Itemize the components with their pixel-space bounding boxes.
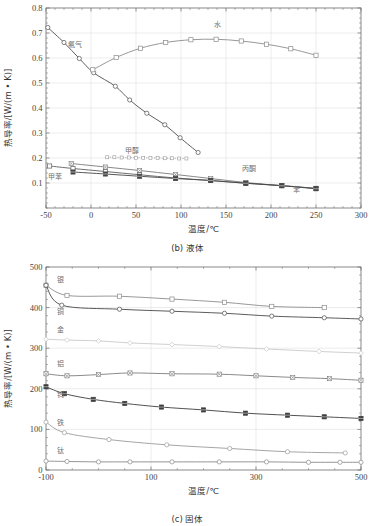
data-point-marker (359, 317, 363, 321)
data-point-marker (91, 68, 95, 72)
liquid-chart-svg: -500501001502002503000.10.20.30.40.50.60… (0, 0, 375, 255)
data-point-marker (46, 25, 50, 29)
y-tick-label: 0.5 (32, 78, 43, 88)
data-point-marker (317, 349, 322, 354)
data-point-marker (239, 39, 243, 43)
y-tick-label: 0.2 (32, 153, 43, 163)
y-tick-label: 0.4 (32, 103, 43, 113)
data-point-marker (149, 157, 152, 160)
series-label-钨: 钨 (57, 390, 64, 399)
series-铁: 铁 (44, 418, 347, 455)
data-point-marker (170, 297, 174, 301)
series-label-钛: 钛 (57, 446, 64, 455)
data-point-marker (128, 341, 133, 346)
data-point-marker (359, 460, 363, 464)
series-label-水: 水 (214, 20, 221, 29)
plot-frame (46, 267, 361, 470)
data-point-marker (270, 314, 274, 318)
data-point-marker (62, 40, 66, 44)
y-tick-label: 500 (30, 262, 43, 272)
data-point-marker (107, 437, 111, 441)
data-point-marker (117, 307, 121, 311)
solid-chart-svg: -1001003005000100200300400500温度/℃热导率/[W/… (0, 255, 375, 526)
data-point-marker (60, 303, 64, 307)
series-line (46, 285, 324, 307)
data-point-marker (44, 459, 48, 463)
liquid-chart-panel: -500501001502002503000.10.20.30.40.50.60… (0, 0, 375, 255)
x-tick-label: 250 (310, 210, 323, 220)
y-tick-label: 0.7 (32, 28, 43, 38)
data-point-marker (44, 420, 48, 424)
y-tick-label: 0.1 (32, 178, 43, 188)
data-point-marker (171, 157, 174, 160)
data-point-marker (164, 40, 168, 44)
data-point-marker (128, 460, 132, 464)
data-point-marker (117, 294, 121, 298)
grid-group (46, 267, 361, 470)
y-tick-label: 200 (30, 384, 43, 394)
data-point-marker (264, 42, 268, 46)
series-label-氨气: 氨气 (68, 40, 82, 49)
x-tick-label: -50 (40, 210, 51, 220)
data-point-marker (222, 300, 226, 304)
data-point-marker (156, 157, 159, 160)
y-tick-label: 100 (30, 424, 43, 434)
data-point-marker (170, 342, 175, 347)
liquid-chart-canvas: -500501001502002503000.10.20.30.40.50.60… (0, 0, 375, 255)
y-tick-label: 0.6 (32, 53, 43, 63)
panel-caption: (c) 固体 (171, 514, 203, 524)
data-point-marker (228, 446, 232, 450)
series-label-金: 金 (57, 325, 64, 334)
series-line (93, 39, 316, 70)
data-point-marker (338, 460, 342, 464)
series-氨气: 氨气 (46, 25, 201, 154)
y-tick-label: 0 (38, 465, 42, 475)
data-point-marker (96, 460, 100, 464)
series-水: 水 (91, 20, 318, 72)
series-line (46, 422, 345, 453)
y-tick-label: 0.3 (32, 128, 43, 138)
data-point-marker (165, 443, 169, 447)
data-point-marker (65, 338, 70, 343)
data-point-marker (189, 38, 193, 42)
series-甲苯: 甲苯 (48, 164, 319, 191)
solid-chart-canvas: -1001003005000100200300400500温度/℃热导率/[W/… (0, 255, 375, 526)
data-point-marker (285, 450, 289, 454)
y-axis-title: 热导率/[W/(m • K)] (3, 329, 13, 408)
y-axis-title: 热导率/[W/(m • K)] (3, 69, 13, 148)
data-point-marker (113, 156, 116, 159)
data-point-marker (196, 150, 200, 154)
series-钛: 钛 (44, 446, 363, 464)
data-point-marker (128, 98, 132, 102)
data-point-marker (106, 156, 109, 159)
series-label-铝: 铝 (57, 359, 64, 368)
data-point-marker (113, 84, 117, 88)
data-point-marker (163, 123, 167, 127)
data-point-marker (135, 156, 138, 159)
data-point-marker (163, 157, 166, 160)
series-label-甲苯: 甲苯 (48, 172, 62, 181)
series-label-丙酮: 丙酮 (242, 165, 256, 173)
data-point-marker (185, 157, 188, 160)
data-point-marker (270, 304, 274, 308)
data-point-marker (178, 136, 182, 140)
series-金: 金 (44, 325, 364, 356)
x-axis-title: 温度/℃ (188, 486, 219, 496)
data-point-marker (48, 164, 52, 168)
data-point-marker (289, 47, 293, 51)
data-point-marker (264, 347, 269, 352)
data-point-marker (322, 316, 326, 320)
series-line (46, 373, 361, 380)
x-tick-label: 300 (250, 472, 263, 482)
series-铜: 铜 (44, 283, 363, 321)
data-point-marker (120, 156, 123, 159)
data-point-marker (145, 111, 149, 115)
x-tick-label: 150 (220, 210, 233, 220)
x-tick-label: 100 (145, 472, 158, 482)
x-tick-label: 200 (265, 210, 278, 220)
data-point-marker (359, 351, 364, 356)
series-钨: 钨 (43, 385, 364, 421)
x-tick-label: 100 (175, 210, 188, 220)
x-tick-label: 50 (132, 210, 141, 220)
data-point-marker (44, 283, 48, 287)
